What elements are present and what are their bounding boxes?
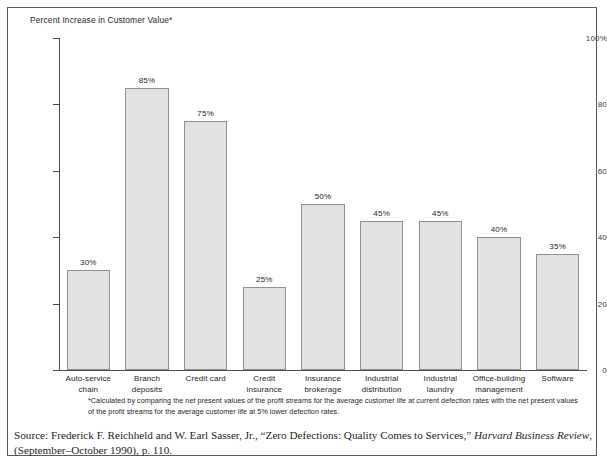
bar-column[interactable]: 75% <box>184 38 227 370</box>
x-axis-category-label: Credit card <box>176 374 235 385</box>
bar-value-label: 75% <box>184 109 227 118</box>
bar[interactable] <box>184 121 227 370</box>
bar-value-label: 25% <box>243 275 286 284</box>
source-citation: Source: Frederick F. Reichheld and W. Ea… <box>14 428 592 458</box>
bar-value-label: 85% <box>125 76 168 85</box>
category-label-line: laundry <box>411 385 470 396</box>
category-label-line: Industrial <box>411 374 470 385</box>
x-axis-category-label: Credit insurance <box>235 374 294 395</box>
y-axis-tick <box>53 370 59 371</box>
x-axis-line <box>59 370 587 371</box>
category-label-line: Credit card <box>176 374 235 385</box>
bar-value-label: 45% <box>360 209 403 218</box>
category-label-line: Insurance <box>294 374 353 385</box>
bar-value-label: 30% <box>67 258 110 267</box>
bar-value-label: 35% <box>536 242 579 251</box>
bar-column[interactable]: 40% <box>477 38 520 370</box>
category-label-line: Office-building <box>470 374 529 385</box>
bar-column[interactable]: 85% <box>125 38 168 370</box>
category-label-line: Industrial <box>352 374 411 385</box>
x-axis-category-label: Office-buildingmanagement <box>470 374 529 395</box>
chart-footnote: *Calculated by comparing the net present… <box>88 396 582 417</box>
bar[interactable] <box>301 204 344 370</box>
bar[interactable] <box>419 221 462 370</box>
bar-column[interactable]: 35% <box>536 38 579 370</box>
plot-area: 30%85%75%25%50%45%45%40%35% <box>59 38 587 370</box>
bar-column[interactable]: 25% <box>243 38 286 370</box>
source-publication: Harvard Business Review <box>474 429 589 441</box>
x-axis-category-label: Software <box>528 374 587 385</box>
bar[interactable] <box>67 270 110 370</box>
bar[interactable] <box>125 88 168 370</box>
x-axis-category-label: Auto-servicechain <box>59 374 118 395</box>
bar[interactable] <box>477 237 520 370</box>
category-label-line: management <box>470 385 529 396</box>
bar-column[interactable]: 45% <box>419 38 462 370</box>
x-axis-category-label: Insurancebrokerage <box>294 374 353 395</box>
bar-column[interactable]: 30% <box>67 38 110 370</box>
category-label-line: distribution <box>352 385 411 396</box>
bar-column[interactable]: 45% <box>360 38 403 370</box>
bar-column[interactable]: 50% <box>301 38 344 370</box>
category-label-line: Branch deposits <box>118 374 177 395</box>
category-label-line: Software <box>528 374 587 385</box>
x-axis-category-label: Branch deposits <box>118 374 177 395</box>
source-prefix: Source: Frederick F. Reichheld and W. Ea… <box>14 429 474 441</box>
bar[interactable] <box>536 254 579 370</box>
bar-value-label: 40% <box>477 225 520 234</box>
category-label-line: Auto-service <box>59 374 118 385</box>
category-label-line: brokerage <box>294 385 353 396</box>
category-label-line: Credit insurance <box>235 374 294 395</box>
category-label-line: chain <box>59 385 118 396</box>
x-axis-category-label: Industrialdistribution <box>352 374 411 395</box>
bar[interactable] <box>243 287 286 370</box>
x-axis-category-label: Industriallaundry <box>411 374 470 395</box>
chart-title: Percent Increase in Customer Value* <box>30 15 172 25</box>
bar-value-label: 45% <box>419 209 462 218</box>
bar-value-label: 50% <box>301 192 344 201</box>
bar[interactable] <box>360 221 403 370</box>
